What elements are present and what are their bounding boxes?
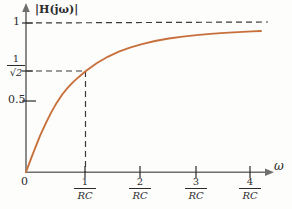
y-tick-label-inv-sqrt2: 1 √2 (5, 54, 27, 78)
fraction-numerator: 1 (5, 54, 27, 64)
fraction-bar (129, 188, 151, 189)
x-axis-arrow (265, 168, 274, 176)
asymptote-line-unity (26, 22, 268, 23)
x-tick-label-4-over-rc: 4 RC (233, 176, 267, 201)
y-tick-label-1: 1 (13, 16, 20, 27)
fraction-numerator: 4 (233, 176, 267, 187)
plot-axis-title: |H(jω)| (35, 4, 78, 15)
fraction-numerator: 1 (68, 176, 102, 187)
x-tick-label-2-over-rc: 2 RC (123, 176, 157, 201)
y-tick-label-0p5: 0.5 (8, 94, 26, 105)
fraction-denominator: RC (68, 190, 102, 201)
response-curve (26, 31, 261, 172)
fraction-denominator: RC (179, 190, 213, 201)
fraction-bar (7, 65, 25, 66)
axis-title-text: |H(jω)| (35, 3, 78, 16)
x-tick-label-1-over-rc: 1 RC (68, 176, 102, 201)
fraction-bar (185, 188, 207, 189)
fraction-numerator: 3 (179, 176, 213, 187)
fraction-numerator: 2 (123, 176, 157, 187)
fraction-denominator: RC (123, 190, 157, 201)
fraction-denominator: RC (233, 190, 267, 201)
fraction-bar (239, 188, 261, 189)
fraction-denominator: √2 (5, 67, 27, 78)
y-axis-arrow (22, 3, 30, 12)
x-tick-label-3-over-rc: 3 RC (179, 176, 213, 201)
fraction-bar (74, 188, 96, 189)
x-axis-label: ω (274, 160, 284, 172)
origin-label: 0 (21, 176, 28, 187)
frequency-response-figure: |H(jω)| 1 1 √2 0.5 0 1 RC 2 RC 3 RC 4 RC… (0, 0, 292, 209)
